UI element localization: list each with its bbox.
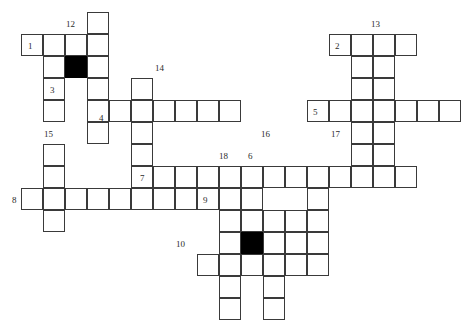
crossword-cell[interactable] [65,188,87,210]
crossword-cell[interactable] [307,100,329,122]
crossword-cell[interactable] [175,188,197,210]
crossword-cell[interactable] [241,188,263,210]
crossword-cell[interactable] [131,100,153,122]
crossword-cell[interactable] [65,34,87,56]
crossword-cell[interactable] [43,166,65,188]
clue-number-17: 17 [331,129,340,139]
crossword-cell[interactable] [395,34,417,56]
crossword-cell[interactable] [153,166,175,188]
crossword-cell[interactable] [197,166,219,188]
crossword-cell[interactable] [351,166,373,188]
clue-number-12: 12 [66,19,75,29]
clue-number-18: 18 [219,151,228,161]
crossword-cell[interactable] [241,210,263,232]
crossword-cell[interactable] [241,166,263,188]
crossword-cell[interactable] [373,144,395,166]
crossword-cell[interactable] [43,56,65,78]
crossword-cell[interactable] [175,100,197,122]
crossword-cell[interactable] [329,166,351,188]
crossword-cell[interactable] [219,232,241,254]
crossword-cell[interactable] [307,166,329,188]
crossword-cell[interactable] [87,188,109,210]
crossword-cell[interactable] [263,254,285,276]
crossword-cell[interactable] [351,100,373,122]
crossword-cell[interactable] [219,298,241,320]
crossword-cell[interactable] [373,166,395,188]
crossword-cell[interactable] [43,100,65,122]
crossword-cell[interactable] [219,254,241,276]
crossword-cell[interactable] [197,254,219,276]
crossword-cell[interactable] [329,100,351,122]
crossword-cell[interactable] [373,100,395,122]
clue-number-2: 2 [335,41,340,51]
crossword-cell[interactable] [109,188,131,210]
crossword-cell[interactable] [219,188,241,210]
crossword-cell[interactable] [43,188,65,210]
crossword-cell[interactable] [263,298,285,320]
crossword-cell[interactable] [351,56,373,78]
crossword-cell[interactable] [285,232,307,254]
crossword-cell[interactable] [219,210,241,232]
crossword-cell[interactable] [373,56,395,78]
crossword-cell[interactable] [263,232,285,254]
crossword-cell[interactable] [351,122,373,144]
crossword-cell[interactable] [87,56,109,78]
crossword-cell[interactable] [439,100,461,122]
crossword-cell[interactable] [87,78,109,100]
clue-number-13: 13 [371,19,380,29]
crossword-cell[interactable] [373,78,395,100]
crossword-cell[interactable] [131,144,153,166]
crossword-cell[interactable] [219,166,241,188]
clue-number-16: 16 [261,129,270,139]
clue-number-4: 4 [99,113,104,123]
crossword-cell[interactable] [219,100,241,122]
crossword-cell[interactable] [395,166,417,188]
crossword-cell[interactable] [351,144,373,166]
clue-number-7: 7 [140,173,145,183]
crossword-cell[interactable] [153,100,175,122]
crossword-cell[interactable] [373,34,395,56]
crossword-cell[interactable] [263,166,285,188]
crossword-cell[interactable] [307,188,329,210]
crossword-cell[interactable] [307,232,329,254]
crossword-cell[interactable] [351,34,373,56]
crossword-cell[interactable] [395,100,417,122]
crossword-cell[interactable] [241,254,263,276]
crossword-cell[interactable] [307,210,329,232]
clue-number-10: 10 [176,239,185,249]
crossword-cell[interactable] [285,210,307,232]
crossword-cell[interactable] [417,100,439,122]
crossword-cell[interactable] [43,144,65,166]
crossword-cell[interactable] [43,210,65,232]
crossword-cell[interactable] [131,78,153,100]
crossword-cell[interactable] [153,188,175,210]
crossword-cell[interactable] [131,122,153,144]
crossword-cell[interactable] [263,276,285,298]
crossword-cell[interactable] [263,210,285,232]
crossword-cell[interactable] [109,100,131,122]
crossword-cell[interactable] [87,12,109,34]
crossword-cell[interactable] [87,100,109,122]
crossword-cell[interactable] [131,188,153,210]
clue-number-9: 9 [203,195,208,205]
clue-number-15: 15 [44,129,53,139]
crossword-cell[interactable] [351,78,373,100]
clue-number-8: 8 [12,195,17,205]
crossword-cell[interactable] [87,34,109,56]
crossword-cell[interactable] [197,188,219,210]
clue-number-5: 5 [313,107,318,117]
crossword-cell[interactable] [175,166,197,188]
crossword-cell[interactable] [285,166,307,188]
crossword-cell[interactable] [197,100,219,122]
crossword-cell[interactable] [219,276,241,298]
clue-number-14: 14 [155,63,164,73]
crossword-cell[interactable] [329,34,351,56]
crossword-cell[interactable] [285,254,307,276]
crossword-cell[interactable] [21,188,43,210]
crossword-cell[interactable] [373,122,395,144]
crossword-cell[interactable] [43,34,65,56]
blocked-cell [65,56,87,78]
crossword-cell[interactable] [87,122,109,144]
crossword-puzzle: 1121323144515161718678910 [0,0,472,320]
crossword-cell[interactable] [307,254,329,276]
